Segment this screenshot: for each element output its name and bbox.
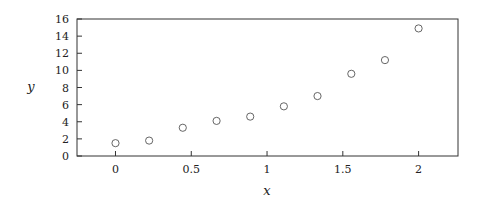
data-point [213, 117, 220, 124]
data-point [348, 70, 355, 77]
data-point [247, 113, 254, 120]
tick-labels: 00.511.520246810121416 [55, 13, 422, 176]
axis-ticks [77, 19, 419, 156]
plot-area [77, 19, 458, 156]
x-tick-label: 0.5 [183, 163, 201, 176]
y-tick-label: 14 [55, 30, 69, 43]
x-tick-label: 1 [264, 163, 271, 176]
plot-frame [77, 19, 458, 156]
x-tick-label: 1.5 [334, 163, 352, 176]
y-tick-label: 12 [55, 47, 69, 60]
x-tick-label: 2 [415, 163, 422, 176]
x-tick-label: 0 [112, 163, 119, 176]
data-point [314, 92, 321, 99]
data-point [280, 103, 287, 110]
data-point [415, 25, 422, 32]
y-tick-label: 10 [55, 64, 69, 77]
y-tick-label: 8 [62, 82, 69, 95]
y-tick-label: 2 [62, 133, 69, 146]
y-tick-label: 6 [62, 99, 69, 112]
data-point [381, 57, 388, 64]
data-point [112, 140, 119, 147]
data-point [146, 137, 153, 144]
y-axis-label: y [26, 79, 35, 94]
y-tick-label: 0 [62, 150, 69, 163]
x-axis-label: x [263, 183, 271, 198]
y-tick-label: 4 [62, 116, 69, 129]
data-point [179, 124, 186, 131]
scatter-chart: 00.511.520246810121416 x y [0, 0, 481, 207]
y-tick-label: 16 [55, 13, 69, 26]
data-points [112, 25, 422, 147]
